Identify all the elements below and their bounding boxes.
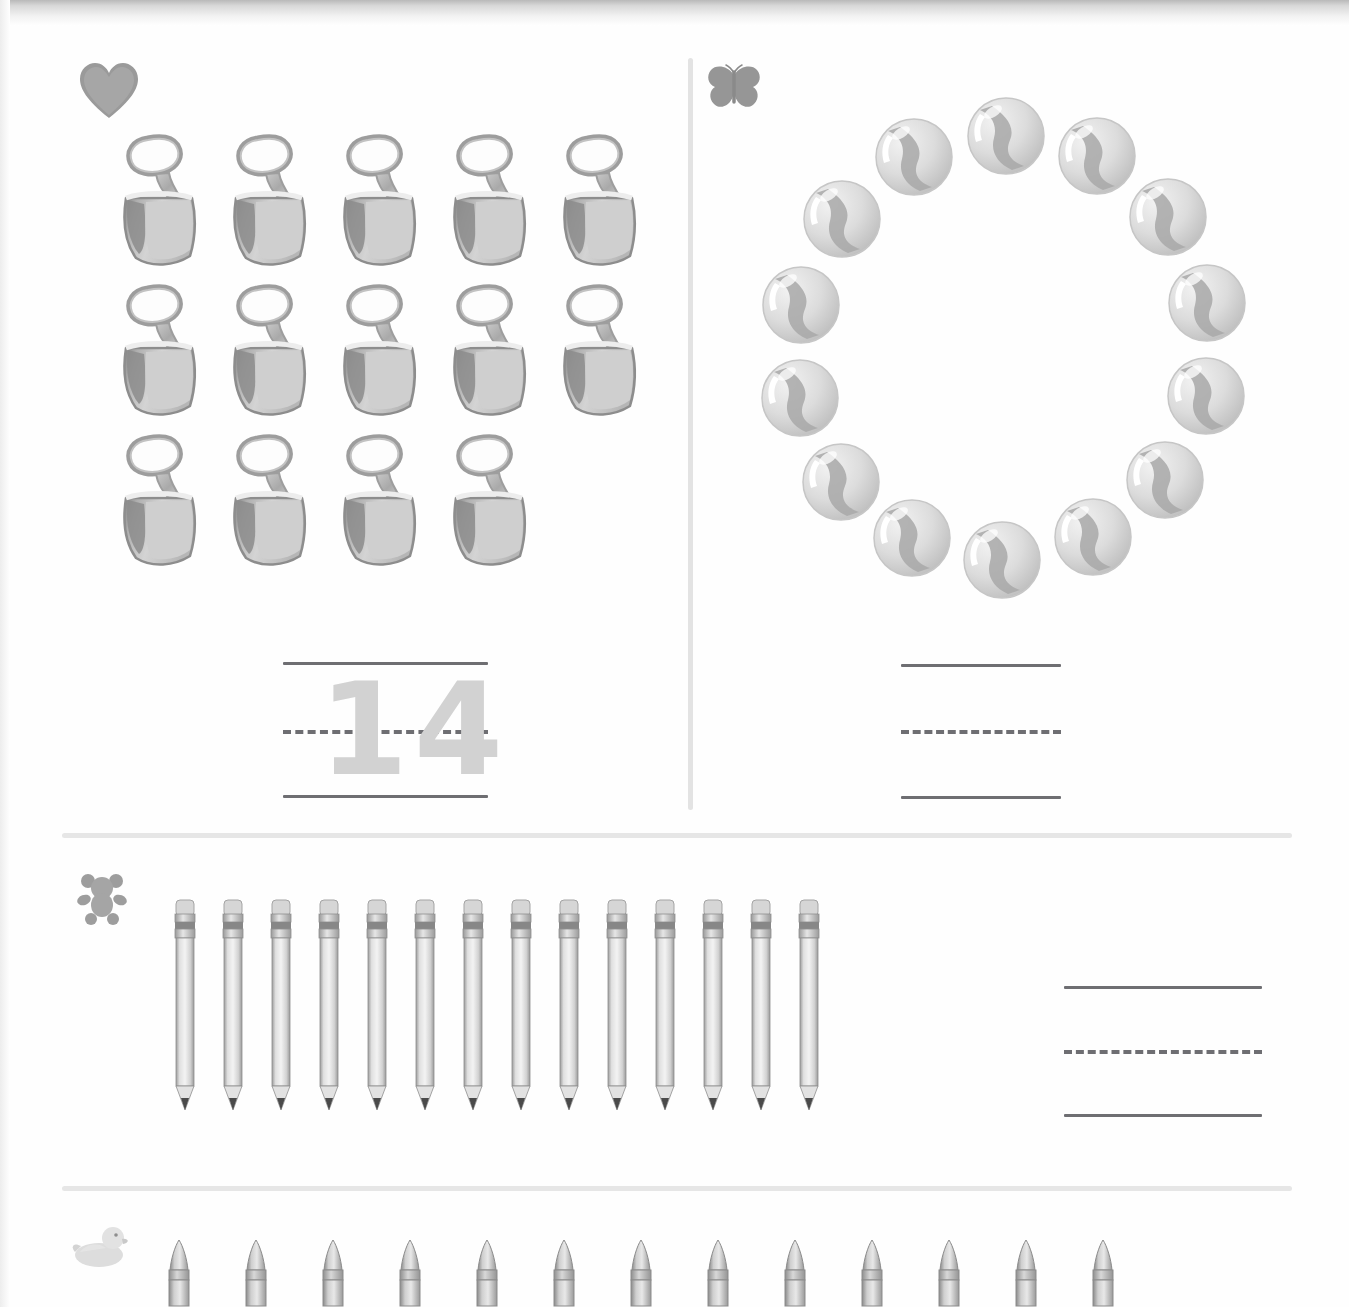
horizontal-divider-1 [62, 833, 1292, 838]
pencil-answer-lines[interactable] [1064, 986, 1262, 1120]
sand-shovel-icon [222, 132, 326, 272]
marble-answer-lines[interactable] [901, 664, 1061, 804]
crayon-icon [932, 1237, 966, 1307]
pencil-icon [412, 898, 438, 1112]
crayon-icon [701, 1237, 735, 1307]
heart-icon [78, 62, 140, 120]
sand-shovel-icon [552, 132, 656, 272]
shovel-row [112, 132, 656, 272]
answer-line-bottom [1064, 1114, 1262, 1117]
pencil-icon [748, 898, 774, 1112]
crayon-icon [855, 1237, 889, 1307]
marble-ring [756, 86, 1256, 616]
rubber-duck-icon [72, 1222, 132, 1270]
pencil-group [172, 898, 822, 1112]
shovel-row [112, 432, 656, 572]
sand-shovel-icon [332, 282, 436, 422]
answer-line-middle [901, 730, 1061, 734]
crayon-icon [316, 1237, 350, 1307]
scan-shadow-left [0, 0, 10, 1307]
sand-shovel-icon [112, 432, 216, 572]
pencil-icon [604, 898, 630, 1112]
answer-line-middle [1064, 1050, 1262, 1054]
sand-shovel-icon [332, 432, 436, 572]
crayon-icon [1086, 1237, 1120, 1307]
sand-shovel-icon [222, 432, 326, 572]
crayon-icon [393, 1237, 427, 1307]
pencil-icon [796, 898, 822, 1112]
crayon-row [162, 1237, 1120, 1307]
pencil-icon [556, 898, 582, 1112]
answer-line-top [1064, 986, 1262, 989]
teddy-bear-icon [76, 872, 128, 926]
shovel-answer-lines[interactable]: 14 [283, 662, 488, 802]
answer-line-bottom [901, 796, 1061, 799]
pencil-icon [652, 898, 678, 1112]
crayon-icon [162, 1237, 196, 1307]
scan-shadow-top [0, 0, 1349, 26]
sand-shovel-icon [442, 282, 546, 422]
crayon-icon [470, 1237, 504, 1307]
pencil-icon [364, 898, 390, 1112]
worksheet-page: 14 [0, 0, 1349, 1307]
pencil-icon [268, 898, 294, 1112]
pencil-icon [460, 898, 486, 1112]
pencil-icon [172, 898, 198, 1112]
crayon-icon [624, 1237, 658, 1307]
crayon-icon [547, 1237, 581, 1307]
sand-shovel-icon [332, 132, 436, 272]
crayon-group [162, 1237, 1120, 1307]
crayon-icon [239, 1237, 273, 1307]
butterfly-icon [706, 64, 762, 112]
sand-shovel-icon [112, 132, 216, 272]
pencil-row [172, 898, 822, 1112]
vertical-divider [688, 58, 693, 810]
pencil-icon [316, 898, 342, 1112]
shovel-row [112, 282, 656, 422]
pencil-icon [220, 898, 246, 1112]
sand-shovel-icon [442, 432, 546, 572]
shovel-group [112, 132, 656, 572]
answer-line-top [901, 664, 1061, 667]
sand-shovel-icon [552, 282, 656, 422]
crayon-icon [778, 1237, 812, 1307]
crayon-icon [1009, 1237, 1043, 1307]
sand-shovel-icon [442, 132, 546, 272]
sand-shovel-icon [222, 282, 326, 422]
horizontal-divider-2 [62, 1186, 1292, 1191]
shovel-answer-traced-value: 14 [319, 666, 509, 794]
sand-shovel-icon [112, 282, 216, 422]
pencil-icon [508, 898, 534, 1112]
pencil-icon [700, 898, 726, 1112]
